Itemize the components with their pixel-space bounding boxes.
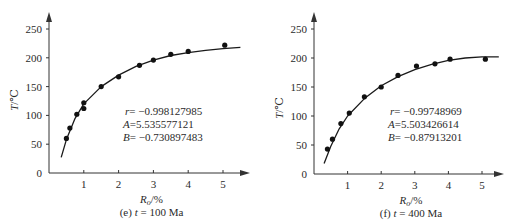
chart-panel-f: 05010015020025012345T/℃Ro/%(f) t = 400 M… <box>255 0 509 223</box>
data-point <box>483 57 488 62</box>
data-point <box>81 100 86 105</box>
x-tick-label: 4 <box>446 179 452 191</box>
y-tick-label: 50 <box>31 138 43 150</box>
data-point <box>186 49 191 54</box>
chart-caption: (e) t = 100 Ma <box>120 206 184 219</box>
fit-parameter-r: r= −0.99748969 <box>390 105 462 117</box>
x-tick-label: 5 <box>479 179 485 191</box>
y-tick-label: 100 <box>26 109 43 121</box>
x-tick-label: 5 <box>220 178 226 190</box>
y-tick-label: 0 <box>37 167 43 179</box>
plot-area: 05010015020025012345T/℃Ro/%(f) t = 400 M… <box>273 12 504 220</box>
data-point <box>395 73 400 78</box>
x-axis-arrow-icon <box>240 170 250 176</box>
chart-panel-e: 05010015020025012345T/℃Ro/%(e) t = 100 M… <box>0 0 255 223</box>
data-point <box>330 137 335 142</box>
x-tick-label: 3 <box>412 179 418 191</box>
data-point <box>447 57 452 62</box>
x-tick-label: 1 <box>345 179 351 191</box>
data-point <box>67 125 72 130</box>
fit-parameter-A: A=5.503426614 <box>387 118 459 130</box>
fit-parameter-B: B= −0.730897483 <box>123 131 203 143</box>
data-point <box>99 84 104 89</box>
chart-e-svg: 05010015020025012345T/℃Ro/%(e) t = 100 M… <box>0 0 255 223</box>
data-point <box>362 94 367 99</box>
y-axis-title: T/℃ <box>273 97 285 119</box>
data-point <box>432 61 437 66</box>
data-point <box>74 112 79 117</box>
data-point <box>338 121 343 126</box>
data-point <box>168 52 173 57</box>
data-point <box>414 64 419 69</box>
y-tick-label: 50 <box>296 139 308 151</box>
y-tick-label: 0 <box>302 168 308 180</box>
x-tick-label: 2 <box>378 179 384 191</box>
fit-parameter-A: A=5.535577121 <box>122 118 194 130</box>
x-tick-label: 2 <box>116 178 122 190</box>
data-point <box>151 58 156 63</box>
data-point <box>81 106 86 111</box>
x-tick-label: 3 <box>151 178 157 190</box>
y-tick-label: 150 <box>291 81 308 93</box>
plot-area: 05010015020025012345T/℃Ro/%(e) t = 100 M… <box>8 12 250 219</box>
y-tick-label: 250 <box>26 23 43 35</box>
data-point <box>222 43 227 48</box>
chart-caption: (f) t = 400 Ma <box>380 207 443 220</box>
data-point <box>116 74 121 79</box>
data-point <box>137 63 142 68</box>
data-point <box>379 84 384 89</box>
y-tick-label: 100 <box>291 110 308 122</box>
x-axis-title: Ro/% <box>399 194 423 208</box>
data-point <box>325 146 330 151</box>
x-axis-title: Ro/% <box>139 193 163 207</box>
chart-f-svg: 05010015020025012345T/℃Ro/%(f) t = 400 M… <box>255 0 509 223</box>
y-tick-label: 200 <box>26 52 43 64</box>
y-axis-arrow-icon <box>46 12 52 22</box>
fit-parameter-B: B= −0.87913201 <box>388 131 462 143</box>
y-axis-title: T/℃ <box>8 89 20 111</box>
fit-parameter-r: r= −0.998127985 <box>125 105 203 117</box>
y-tick-label: 150 <box>26 81 43 93</box>
y-tick-label: 200 <box>291 52 308 64</box>
y-tick-label: 250 <box>291 23 308 35</box>
data-point <box>347 111 352 116</box>
x-tick-label: 1 <box>81 178 87 190</box>
x-axis-arrow-icon <box>494 171 504 177</box>
x-tick-label: 4 <box>185 178 191 190</box>
data-point <box>64 136 69 141</box>
y-axis-arrow-icon <box>311 12 317 22</box>
